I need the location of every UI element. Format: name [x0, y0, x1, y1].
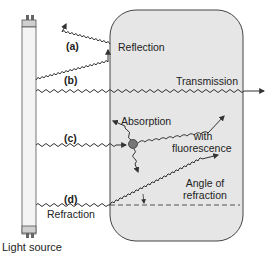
- label-with: with: [178, 130, 228, 142]
- label-a: (a): [66, 40, 79, 52]
- label-angle-refraction: refraction: [175, 189, 235, 201]
- label-angle-of: Angle of: [175, 177, 235, 189]
- label-transmission: Transmission: [176, 75, 238, 87]
- light-source-tube-icon: [22, 15, 36, 238]
- label-fluorescence: fluorescence: [172, 142, 232, 154]
- diagram-canvas: [0, 0, 272, 257]
- label-reflection: Reflection: [118, 41, 165, 53]
- absorbing-particle: [129, 140, 138, 149]
- label-absorption: Absorption: [121, 115, 171, 127]
- label-b: (b): [64, 74, 77, 86]
- label-refraction: Refraction: [47, 208, 95, 220]
- label-d: (d): [64, 193, 77, 205]
- label-light-source: Light source: [2, 241, 62, 253]
- label-c: (c): [64, 132, 77, 144]
